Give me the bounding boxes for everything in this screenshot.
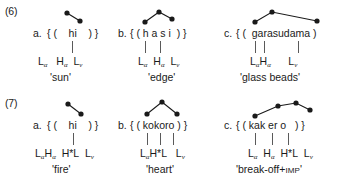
gloss-end: ' <box>300 163 302 175</box>
example-item-6c: c. { ( garasudama ) LαHα Lv 'glass beads… <box>222 0 357 92</box>
tone-contour-7b <box>116 92 226 122</box>
tone-contour-6a <box>0 0 118 30</box>
gloss-6b: 'edge' <box>148 71 175 83</box>
association-line <box>173 133 174 145</box>
tier-row-7b: LαH*L Lv <box>140 147 185 163</box>
association-line <box>147 133 148 145</box>
association-line <box>264 41 265 53</box>
association-line <box>160 133 161 145</box>
bracket-row-7c: { ( kak er o ) } <box>236 119 305 131</box>
tone-contour-6c <box>222 0 357 30</box>
tone-contour-7a <box>0 92 118 122</box>
tier-row-6a: Lα Hα Lv <box>38 55 82 71</box>
gloss-6a: 'sun' <box>50 71 71 83</box>
association-line <box>73 133 74 145</box>
bracket-row-7a: { ( hi ) } <box>47 119 98 131</box>
tier-row-7a: LαHα H*L Lv <box>35 147 94 163</box>
gloss-7c: 'break-off+IMP' <box>236 163 302 177</box>
gloss-6c: 'glass beads' <box>240 71 300 83</box>
association-line <box>272 133 273 145</box>
association-line <box>288 133 289 145</box>
gloss-main: 'break-off+ <box>236 163 285 175</box>
association-line <box>145 41 146 53</box>
example-item-7c: c. { ( kak er o ) } Lα Hα H*L Lv 'break-… <box>222 92 357 184</box>
gloss-7a: 'fire' <box>52 163 71 175</box>
tone-contour-7c <box>222 92 357 122</box>
gloss-smallcaps: IMP <box>285 166 300 175</box>
bracket-row-6a: { ( hi ) } <box>47 27 98 39</box>
tone-contour-6b <box>116 0 226 30</box>
association-line <box>298 41 299 53</box>
tier-row-6b: Lα Hα Lv <box>138 55 179 71</box>
example-item-6a: a. { ( hi ) } Lα Hα Lv 'sun' <box>0 0 118 92</box>
example-item-7a: a. { ( hi ) } LαHα H*L Lv 'fire' <box>0 92 118 184</box>
example-block-6: (6) a. { ( hi ) } Lα Hα Lv 'sun' b. { ( … <box>0 0 357 92</box>
example-block-7: (7) a. { ( hi ) } LαHα H*L Lv 'fire' b. … <box>0 92 357 185</box>
gloss-7b: 'heart' <box>146 163 174 175</box>
association-line <box>255 41 256 53</box>
association-line <box>72 41 73 53</box>
bracket-row-6c: { ( garasudama ) <box>236 27 317 39</box>
example-item-6b: b. { ( h a s i ) } Lα Hα Lv 'edge' <box>116 0 226 92</box>
association-line <box>160 41 161 53</box>
tier-row-7c: Lα Hα H*L Lv <box>248 147 313 163</box>
bracket-row-7b: { ( kokoro ) } <box>130 119 187 131</box>
association-line <box>255 133 256 145</box>
bracket-row-6b: { ( h a s i ) } <box>130 27 187 39</box>
tier-row-6c: LαHα Lv <box>250 55 297 71</box>
example-item-7b: b. { ( kokoro ) } LαH*L Lv 'heart' <box>116 92 226 184</box>
